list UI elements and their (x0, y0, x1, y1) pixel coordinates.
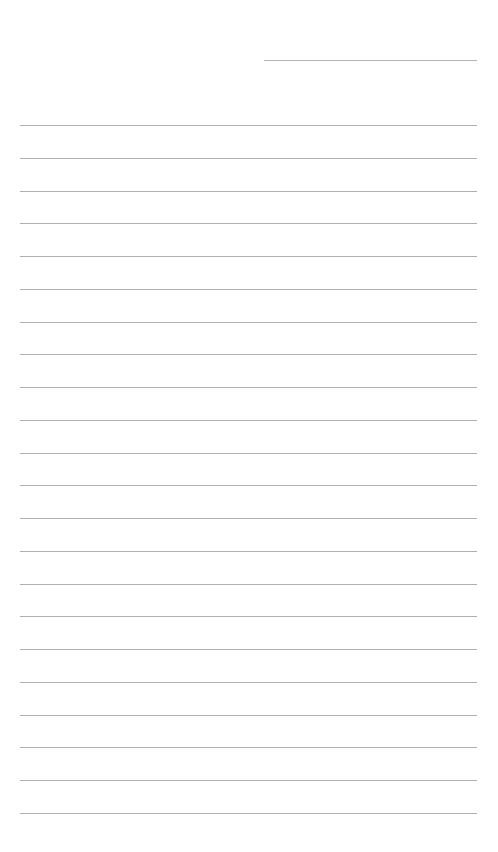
ruled-line (20, 453, 477, 454)
ruled-line (20, 322, 477, 323)
ruled-line (20, 191, 477, 192)
ruled-line (20, 420, 477, 421)
ruled-line (20, 682, 477, 683)
ruled-line (20, 485, 477, 486)
ruled-line (20, 289, 477, 290)
ruled-line (20, 125, 477, 126)
ruled-line (20, 387, 477, 388)
ruled-line (20, 551, 477, 552)
ruled-line (20, 223, 477, 224)
ruled-line (20, 747, 477, 748)
ruled-line (20, 584, 477, 585)
ruled-line (20, 354, 477, 355)
ruled-line (20, 649, 477, 650)
ruled-line (20, 256, 477, 257)
header-rule (264, 60, 477, 61)
ruled-line (20, 813, 477, 814)
ruled-line (20, 616, 477, 617)
ruled-line (20, 158, 477, 159)
ruled-line (20, 715, 477, 716)
ruled-line (20, 518, 477, 519)
ruled-line (20, 780, 477, 781)
